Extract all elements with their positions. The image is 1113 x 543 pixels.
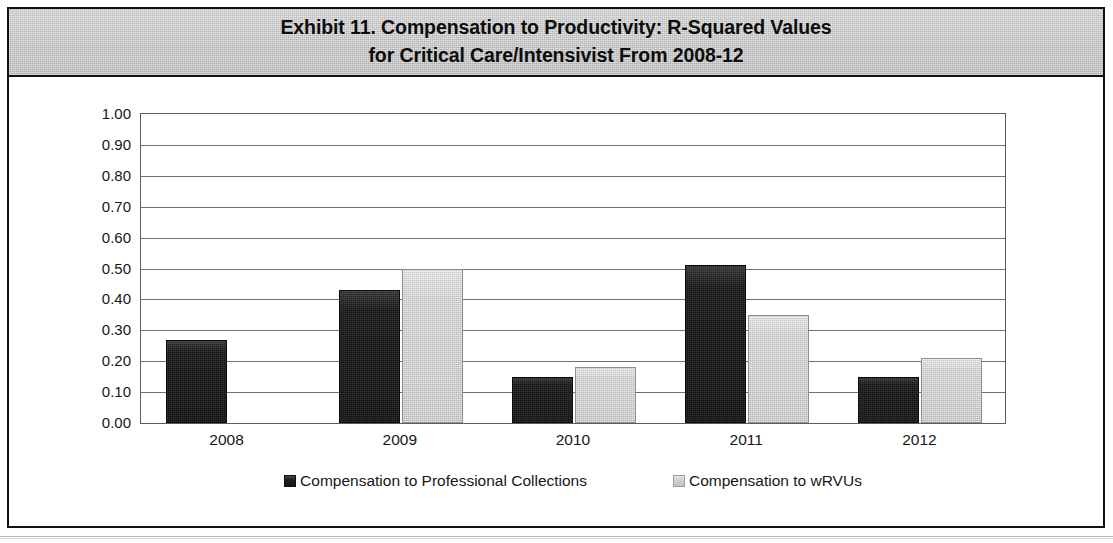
x-axis-tick-label-2011: 2011 — [660, 431, 833, 449]
bar-2008-series1[interactable] — [166, 340, 227, 423]
bar-2012-series1[interactable] — [858, 377, 919, 423]
y-axis-tick-label: 0.00 — [75, 415, 131, 430]
scan-artifact-line-secondary — [0, 538, 1113, 539]
bar-2010-series2[interactable] — [575, 367, 636, 423]
title-line-2: for Critical Care/Intensivist From 2008-… — [280, 42, 831, 70]
legend-item-2[interactable]: Compensation to wRVUs — [673, 472, 862, 490]
y-axis-tick-label: 0.60 — [75, 230, 131, 245]
page-title: Exhibit 11. Compensation to Productivity… — [280, 14, 831, 69]
legend-swatch-icon — [284, 475, 296, 487]
x-axis-tick-label-2008: 2008 — [140, 431, 313, 449]
legend-label: Compensation to wRVUs — [689, 472, 862, 490]
legend-item-1[interactable]: Compensation to Professional Collections — [284, 472, 587, 490]
bar-group — [141, 114, 314, 423]
chart-container: 1.000.900.800.700.600.500.400.300.200.10… — [9, 79, 1103, 526]
chart-legend: Compensation to Professional Collections… — [140, 468, 1006, 494]
bar-2009-series1[interactable] — [339, 290, 400, 423]
bar-group — [661, 114, 834, 423]
scanned-page: Exhibit 11. Compensation to Productivity… — [0, 0, 1113, 543]
bar-2009-series2[interactable] — [402, 269, 463, 424]
y-axis-tick-label: 0.40 — [75, 291, 131, 306]
bar-2011-series1[interactable] — [685, 265, 746, 423]
bar-2012-series2[interactable] — [921, 358, 982, 423]
bar-2010-series1[interactable] — [512, 377, 573, 423]
y-axis-tick-label: 0.80 — [75, 168, 131, 183]
legend-label: Compensation to Professional Collections — [300, 472, 587, 490]
y-axis-tick-label: 0.90 — [75, 137, 131, 152]
bar-2011-series2[interactable] — [748, 315, 809, 423]
x-axis-tick-label-2009: 2009 — [313, 431, 486, 449]
y-axis-tick-label: 0.70 — [75, 199, 131, 214]
y-axis-tick-label: 0.30 — [75, 322, 131, 337]
bar-group — [834, 114, 1007, 423]
y-axis-tick-label: 0.50 — [75, 261, 131, 276]
exhibit-title-band: Exhibit 11. Compensation to Productivity… — [9, 9, 1103, 77]
legend-swatch-icon — [673, 475, 685, 487]
y-axis-tick-label: 1.00 — [75, 106, 131, 121]
bar-group — [487, 114, 660, 423]
plot-area — [140, 113, 1006, 424]
y-axis-tick-label: 0.10 — [75, 384, 131, 399]
scan-artifact-line — [0, 536, 1113, 537]
title-line-1: Exhibit 11. Compensation to Productivity… — [280, 16, 831, 38]
y-axis-tick-label: 0.20 — [75, 353, 131, 368]
x-axis-tick-label-2012: 2012 — [833, 431, 1006, 449]
bar-group — [314, 114, 487, 423]
x-axis-tick-label-2010: 2010 — [486, 431, 659, 449]
